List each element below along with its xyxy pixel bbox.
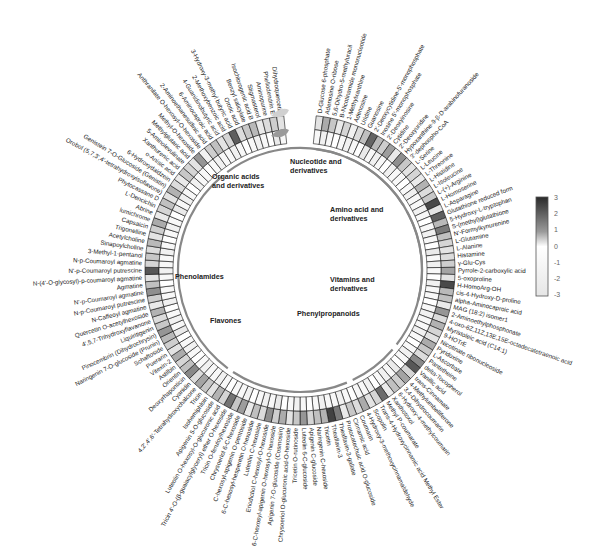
- heatmap-cell: [293, 411, 300, 425]
- category-label: Phenolamides: [175, 272, 224, 281]
- metabolite-label: Tricetin O-rutinoside: [291, 427, 299, 483]
- color-legend: 3210-1-2-3: [536, 194, 560, 298]
- legend-tick-label: -1: [554, 259, 560, 266]
- heatmap-cell: [426, 254, 440, 261]
- category-label: Flavones: [210, 316, 241, 325]
- heatmap-cell: [159, 268, 173, 275]
- category-label: derivatives: [330, 214, 368, 223]
- legend-tick-label: 1: [554, 226, 558, 233]
- legend-tick-label: -3: [554, 291, 560, 298]
- heatmap-cell: [307, 410, 315, 424]
- heatmap-cell: [145, 260, 159, 267]
- category-label: Vitamins and: [330, 275, 375, 284]
- category-label: Amino acid and: [330, 205, 384, 214]
- legend-tick-label: 0: [554, 243, 558, 250]
- heatmap-cell: [427, 268, 441, 275]
- metabolite-label: Pyrrole-2-carboxylic acid: [458, 267, 526, 274]
- heatmap-cell: [440, 253, 455, 261]
- category-label: derivatives: [290, 166, 328, 175]
- legend-tick-label: 2: [554, 210, 558, 217]
- heatmap-cell: [159, 274, 173, 281]
- metabolite-label: Luteolin 6-C-glucoside: [301, 428, 309, 490]
- category-label: Phenylpropanoids: [297, 309, 360, 318]
- heatmap-cell: [145, 267, 159, 274]
- heatmap-cell: [293, 397, 300, 411]
- heatmap-cell: [427, 261, 441, 268]
- legend-tick-label: 3: [554, 194, 558, 201]
- legend-tick-label: -2: [554, 275, 560, 282]
- heatmap-cell: [300, 397, 307, 411]
- metabolite-label: γ-Glu-Cys: [458, 258, 486, 266]
- heatmap-cell: [300, 411, 307, 425]
- category-label: derivatives: [330, 284, 368, 293]
- heatmap-cell: [441, 260, 455, 267]
- metabolite-labels: D-Glucose 6-phosphateAdenosine O-ribose5…: [33, 32, 574, 546]
- heatmap-cell: [145, 274, 159, 282]
- heatmap-cell: [145, 281, 160, 289]
- category-label: Nucleotide and: [290, 157, 342, 166]
- heatmap-cell: [441, 267, 455, 274]
- category-labels: Nucleotide andderivativesAmino acid andd…: [175, 148, 422, 392]
- heatmap-cell: [306, 396, 313, 410]
- metabolite-label: N'-p-Coumaroyl putrescine: [69, 267, 143, 274]
- circular-heatmap: D-Glucose 6-phosphateAdenosine O-ribose5…: [0, 0, 601, 546]
- category-label: and derivatives: [212, 181, 264, 190]
- legend-colorbar: [536, 197, 548, 296]
- category-label: Organic acids: [212, 172, 260, 181]
